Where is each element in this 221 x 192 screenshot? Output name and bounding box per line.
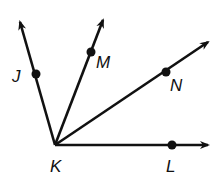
point-m bbox=[87, 48, 96, 57]
ray-kn bbox=[55, 42, 208, 145]
label-j: J bbox=[11, 67, 21, 86]
point-l bbox=[168, 141, 177, 150]
ray-kj bbox=[20, 22, 55, 145]
label-l: L bbox=[166, 157, 175, 176]
angle-diagram: JMNLK bbox=[0, 0, 221, 192]
label-m: M bbox=[96, 53, 111, 72]
label-n: N bbox=[170, 76, 183, 95]
ray-km bbox=[55, 20, 103, 145]
point-j bbox=[32, 70, 41, 79]
label-vertex-k: K bbox=[50, 157, 62, 176]
